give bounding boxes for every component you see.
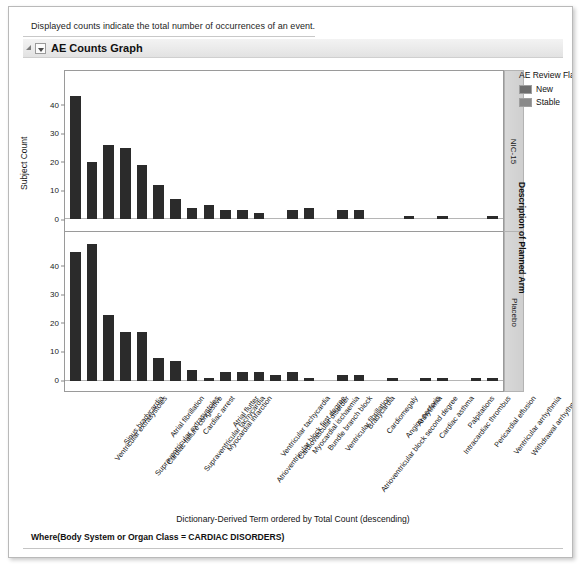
bar-cell[interactable] xyxy=(84,238,101,381)
bar[interactable] xyxy=(87,244,98,381)
bar-cell[interactable] xyxy=(317,238,334,381)
bar-cell[interactable] xyxy=(301,238,318,381)
bar[interactable] xyxy=(254,372,265,381)
bar-cell[interactable] xyxy=(351,238,368,381)
bar[interactable] xyxy=(237,210,248,219)
bar[interactable] xyxy=(103,145,114,219)
bar[interactable] xyxy=(187,370,198,381)
section-header-bar[interactable]: AE Counts Graph xyxy=(23,39,563,58)
bar-cell[interactable] xyxy=(251,77,268,219)
bar-cell[interactable] xyxy=(100,77,117,219)
bar[interactable] xyxy=(354,210,365,219)
bar-cell[interactable] xyxy=(468,238,485,381)
bar-cell[interactable] xyxy=(201,238,218,381)
bar-cell[interactable] xyxy=(367,238,384,381)
triangle-expand-icon[interactable] xyxy=(26,45,31,50)
bar[interactable] xyxy=(420,378,431,381)
bar[interactable] xyxy=(204,378,215,381)
bar[interactable] xyxy=(337,210,348,219)
bar-cell[interactable] xyxy=(84,77,101,219)
bar-cell[interactable] xyxy=(267,238,284,381)
bar-cell[interactable] xyxy=(201,77,218,219)
bar[interactable] xyxy=(437,216,448,219)
bar[interactable] xyxy=(120,148,131,220)
bar-cell[interactable] xyxy=(284,238,301,381)
bar[interactable] xyxy=(387,378,398,381)
bar[interactable] xyxy=(103,315,114,381)
bar-cell[interactable] xyxy=(301,77,318,219)
bar-cell[interactable] xyxy=(284,77,301,219)
bar[interactable] xyxy=(304,208,315,219)
bar[interactable] xyxy=(220,210,231,219)
bar-cell[interactable] xyxy=(417,238,434,381)
legend-item-new[interactable]: New xyxy=(519,84,573,94)
bar-cell[interactable] xyxy=(401,238,418,381)
bar-cell[interactable] xyxy=(417,77,434,219)
bar[interactable] xyxy=(204,205,215,219)
bar[interactable] xyxy=(170,361,181,381)
x-axis-label: Atrioventricular block second degree xyxy=(379,394,460,494)
bar-cell[interactable] xyxy=(167,238,184,381)
bar-cell[interactable] xyxy=(184,238,201,381)
bar-cell[interactable] xyxy=(117,238,134,381)
bar-cell[interactable] xyxy=(317,77,334,219)
bar[interactable] xyxy=(170,199,181,219)
bar[interactable] xyxy=(137,332,148,381)
y-axis-title: Subject Count xyxy=(19,137,29,190)
bar[interactable] xyxy=(137,165,148,219)
bar-cell[interactable] xyxy=(167,77,184,219)
bar[interactable] xyxy=(487,216,498,219)
bar-cell[interactable] xyxy=(217,77,234,219)
bar[interactable] xyxy=(187,208,198,219)
bar[interactable] xyxy=(270,375,281,381)
bar-cell[interactable] xyxy=(217,238,234,381)
bar-cell[interactable] xyxy=(334,77,351,219)
bar-cell[interactable] xyxy=(468,77,485,219)
bar-cell[interactable] xyxy=(451,77,468,219)
bar-cell[interactable] xyxy=(184,77,201,219)
bar[interactable] xyxy=(87,162,98,219)
bar-cell[interactable] xyxy=(100,238,117,381)
bar[interactable] xyxy=(337,375,348,381)
bar-cell[interactable] xyxy=(434,238,451,381)
bar-cell[interactable] xyxy=(234,238,251,381)
bar-cell[interactable] xyxy=(434,77,451,219)
bar-cell[interactable] xyxy=(67,77,84,219)
bar-cell[interactable] xyxy=(117,77,134,219)
bar-cell[interactable] xyxy=(251,238,268,381)
bar[interactable] xyxy=(153,185,164,219)
legend-item-stable[interactable]: Stable xyxy=(519,97,573,107)
bar-cell[interactable] xyxy=(67,238,84,381)
bar[interactable] xyxy=(471,378,482,381)
bar-cell[interactable] xyxy=(150,238,167,381)
bar[interactable] xyxy=(237,372,248,381)
bar[interactable] xyxy=(287,210,298,219)
bar[interactable] xyxy=(354,375,365,381)
bar-cell[interactable] xyxy=(134,238,151,381)
bar-cell[interactable] xyxy=(451,238,468,381)
bar[interactable] xyxy=(220,372,231,381)
bar[interactable] xyxy=(287,372,298,381)
bar[interactable] xyxy=(254,213,265,219)
bar-cell[interactable] xyxy=(484,77,501,219)
bar[interactable] xyxy=(153,358,164,381)
bar-cell[interactable] xyxy=(367,77,384,219)
bar-cell[interactable] xyxy=(334,238,351,381)
bar[interactable] xyxy=(437,378,448,381)
bar[interactable] xyxy=(304,378,315,381)
bar-cell[interactable] xyxy=(401,77,418,219)
bar[interactable] xyxy=(487,378,498,381)
bar-cell[interactable] xyxy=(384,77,401,219)
bar[interactable] xyxy=(70,252,81,381)
bar-cell[interactable] xyxy=(351,77,368,219)
bar-cell[interactable] xyxy=(134,77,151,219)
bar[interactable] xyxy=(120,332,131,381)
bar-cell[interactable] xyxy=(384,238,401,381)
bar-cell[interactable] xyxy=(484,238,501,381)
bar-cell[interactable] xyxy=(234,77,251,219)
chevron-down-icon[interactable] xyxy=(35,43,46,54)
bar[interactable] xyxy=(70,96,81,219)
bar[interactable] xyxy=(404,216,415,219)
bar-cell[interactable] xyxy=(267,77,284,219)
bar-cell[interactable] xyxy=(150,77,167,219)
